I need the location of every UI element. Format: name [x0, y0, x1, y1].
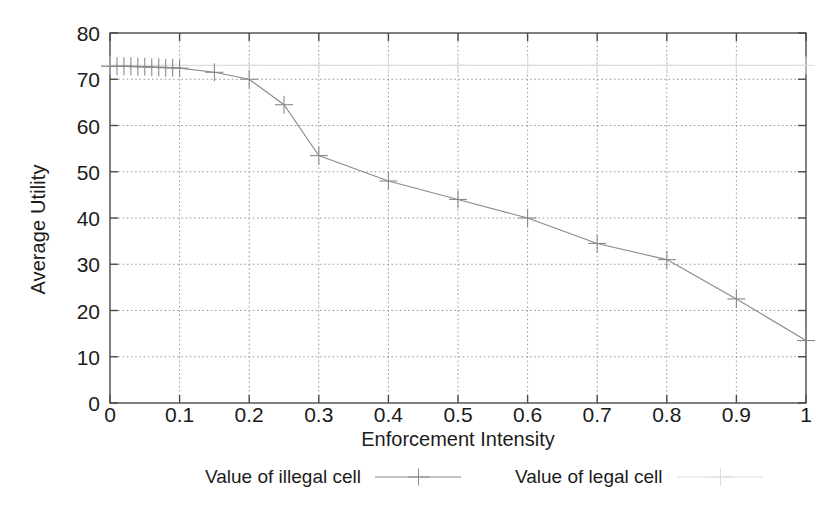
x-tick-label: 0.6 [513, 404, 542, 425]
plus-icon [710, 477, 732, 478]
x-tick-label: 0.4 [374, 404, 403, 425]
x-tick-label: 0.3 [304, 404, 333, 425]
chart-figure: Average Utility 01020304050607080 00.10.… [0, 0, 834, 530]
legend-key-illegal-cell [375, 467, 461, 487]
legend-label-illegal-cell: Value of illegal cell [205, 466, 361, 488]
legend-entry-illegal-cell: Value of illegal cell [205, 466, 461, 488]
legend-label-legal-cell: Value of legal cell [515, 466, 663, 488]
x-tick-label: 0.8 [652, 404, 681, 425]
x-tick-label: 0.2 [235, 404, 264, 425]
plus-icon-vertical [418, 469, 419, 486]
legend-entry-legal-cell: Value of legal cell [515, 466, 763, 488]
x-tick-label: 0.7 [583, 404, 612, 425]
x-tick-label: 1 [800, 404, 812, 425]
chart-page: Average Utility 01020304050607080 00.10.… [0, 0, 834, 530]
legend-key-legal-cell [677, 467, 763, 487]
x-axis-title: Enforcement Intensity [110, 428, 806, 451]
x-tick-label: 0 [104, 404, 116, 425]
x-tick-label: 0.1 [165, 404, 194, 425]
x-tick-label: 0.9 [722, 404, 751, 425]
grid-lines [110, 33, 806, 403]
plus-icon [408, 477, 430, 478]
chart-legend: Value of illegal cell Value of legal cel… [0, 466, 834, 506]
plus-icon-vertical [720, 469, 721, 486]
x-tick-label: 0.5 [443, 404, 472, 425]
